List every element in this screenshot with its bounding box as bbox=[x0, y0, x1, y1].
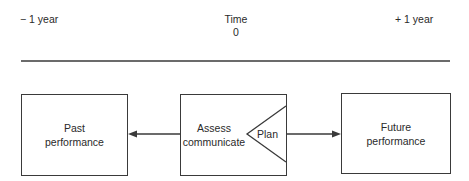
past-performance-box: Past performance bbox=[21, 94, 128, 176]
past-performance-label: Past performance bbox=[22, 121, 127, 149]
assess-communicate-box: Assess communicate Plan bbox=[180, 94, 287, 176]
future-performance-box: Future performance bbox=[341, 93, 451, 174]
arrowhead-right-icon bbox=[332, 131, 341, 138]
plan-label: Plan bbox=[257, 128, 278, 141]
future-performance-label: Future performance bbox=[342, 120, 450, 148]
arrowhead-left-icon bbox=[128, 131, 137, 138]
